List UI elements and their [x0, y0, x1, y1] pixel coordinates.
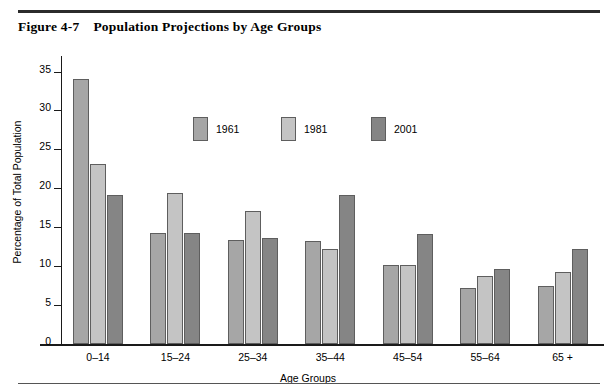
bar — [460, 288, 476, 344]
legend-item: 1981 — [281, 117, 327, 141]
y-tick: 20 — [0, 188, 61, 189]
top-rule — [18, 10, 600, 13]
figure-container: Figure 4-7Population Projections by Age … — [0, 0, 616, 391]
y-tick-label: 35 — [39, 64, 51, 75]
bar — [107, 195, 123, 344]
y-tick-label: 0 — [45, 336, 51, 347]
y-tick: 30 — [0, 110, 61, 111]
y-axis-label: Percentage of Total Population — [11, 62, 23, 322]
bar — [184, 233, 200, 344]
bar — [400, 265, 416, 344]
y-tick: 0 — [0, 344, 61, 345]
legend-item: 1961 — [193, 117, 239, 141]
y-tick-mark — [54, 110, 61, 111]
bar — [494, 269, 510, 345]
x-group-label: 35–44 — [291, 351, 369, 363]
y-tick-mark — [54, 227, 61, 228]
x-group-label: 45–54 — [369, 351, 447, 363]
y-tick: 25 — [0, 149, 61, 150]
bar — [417, 234, 433, 344]
y-tick: 5 — [0, 305, 61, 306]
x-axis-line — [40, 344, 604, 346]
bottom-rule — [18, 383, 600, 384]
y-tick-mark — [54, 72, 61, 73]
bar — [90, 164, 106, 344]
bar — [150, 233, 166, 344]
legend-item: 2001 — [371, 117, 417, 141]
legend-swatch — [371, 117, 386, 141]
plot-area — [62, 56, 604, 344]
bar — [383, 265, 399, 344]
x-group-label: 65 + — [524, 351, 602, 363]
figure-number: Figure 4-7 — [18, 19, 79, 34]
y-tick-label: 10 — [39, 258, 51, 269]
bar — [245, 211, 261, 344]
y-tick-label: 25 — [39, 141, 51, 152]
legend-swatch — [281, 117, 296, 141]
bar — [339, 195, 355, 344]
y-tick-label: 5 — [45, 297, 51, 308]
figure-caption: Figure 4-7Population Projections by Age … — [18, 19, 321, 35]
y-tick-mark — [54, 266, 61, 267]
bar — [322, 249, 338, 344]
y-tick-mark — [54, 305, 61, 306]
y-tick: 15 — [0, 227, 61, 228]
y-tick-label: 15 — [39, 219, 51, 230]
y-tick-label: 20 — [39, 180, 51, 191]
y-tick-label: 30 — [39, 102, 51, 113]
legend-label: 1961 — [216, 123, 239, 135]
bar — [477, 276, 493, 344]
bar — [228, 240, 244, 344]
y-tick-mark — [54, 188, 61, 189]
y-tick: 10 — [0, 266, 61, 267]
y-tick: 35 — [0, 72, 61, 73]
x-group-label: 0–14 — [59, 351, 137, 363]
legend-label: 2001 — [394, 123, 417, 135]
x-group-label: 25–34 — [214, 351, 292, 363]
bar — [555, 272, 571, 344]
bar — [167, 193, 183, 344]
bar — [262, 238, 278, 344]
y-tick-mark — [54, 149, 61, 150]
bar — [538, 286, 554, 344]
x-group-label: 15–24 — [136, 351, 214, 363]
bar — [305, 241, 321, 344]
bar — [73, 79, 89, 344]
x-group-label: 55–64 — [446, 351, 524, 363]
bar — [572, 249, 588, 344]
legend-swatch — [193, 117, 208, 141]
figure-title: Population Projections by Age Groups — [93, 19, 321, 34]
y-tick-mark — [54, 344, 61, 345]
legend-label: 1981 — [304, 123, 327, 135]
